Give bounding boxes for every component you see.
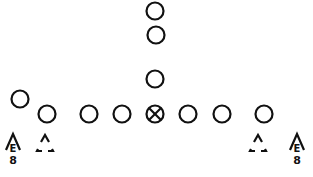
up-back-circle [147,71,164,88]
left-guard-circle [114,106,131,123]
right-end-circle [256,106,273,123]
right-defender-triangle-icon [250,135,266,151]
right-tackle-circle [214,106,231,123]
right-guard-circle [180,106,197,123]
left-end-letter: E [7,144,19,154]
left-end-circle [39,106,56,123]
left-defender-triangle-icon [37,135,53,151]
left-tackle-circle [81,106,98,123]
right-end-letter: E [291,144,303,154]
right-end-number: 8 [291,156,303,166]
wingback-circle [12,91,29,108]
deep-back-2-circle [148,27,165,44]
deep-back-1-circle [147,3,164,20]
formation-diagram [0,0,313,177]
center-marked-icon [147,106,164,123]
left-end-number: 8 [7,156,19,166]
